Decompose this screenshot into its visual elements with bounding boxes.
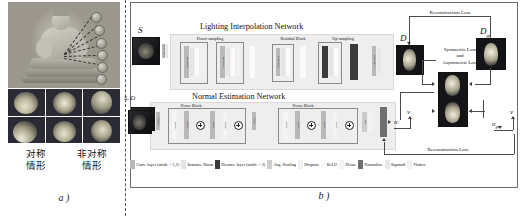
- layer-normalize-nen: [380, 107, 387, 137]
- render-thumbnail-pred: [438, 72, 468, 100]
- recon-bottom-h: [384, 154, 514, 155]
- legend-swatch-relu: [321, 160, 326, 169]
- layer-inorm-s1: [166, 44, 168, 58]
- output-d-thumbnail: [396, 45, 424, 75]
- arrow-to-nv: [388, 120, 391, 124]
- normal-n-label: n: [394, 118, 398, 126]
- legend-item-dropout: Dropout: [298, 160, 319, 169]
- layer-conv-out: 128x128x3: [372, 46, 376, 76]
- lighting-interpolation-network-title: Lighting Interpolation Network: [200, 22, 303, 31]
- statue-hair: [53, 8, 69, 16]
- layer-deconv-u1: [322, 46, 328, 78]
- input-s-thumbnail: [132, 37, 160, 65]
- d-out-line-v: [422, 60, 423, 84]
- layer-dense-b2-1: 32x32: [283, 111, 288, 139]
- gt-into-render-line: [475, 84, 491, 85]
- legend-swatch-normalize: [358, 160, 363, 169]
- legend-label-relu: ReLU: [327, 162, 338, 167]
- reconstruction-loss-bottom-label: Reconstruction Loss: [412, 147, 484, 152]
- recon-top-arrow: [407, 42, 411, 45]
- caption-symmetric: 对称 情形: [8, 146, 64, 192]
- layer-sigmoid-out: [377, 48, 381, 74]
- layer-conv-nen-in: 64x64: [156, 112, 160, 130]
- view-v-stem: [410, 118, 411, 128]
- view-v-gt-stem: [513, 118, 514, 130]
- layer-dense-b1-2: 64x64: [222, 111, 227, 139]
- sphere-tile-2: [46, 89, 83, 116]
- layer-conv-d1: 64x64x32: [184, 46, 189, 78]
- ground-truth-d-label: Dgt: [480, 26, 490, 38]
- layer-avgpool-nen: 8x8: [362, 112, 367, 132]
- layer-relu-d1: [195, 48, 199, 76]
- layer-conv-nen-mid: 32x32: [252, 112, 256, 130]
- caption-symmetric-line1: 对称: [8, 148, 64, 160]
- layer-conv-s1: 128x128x3: [162, 44, 165, 58]
- nv-up-line: [400, 92, 401, 120]
- residual-block-label: Residual Block: [280, 36, 306, 41]
- caption-asymmetric-line2: 情形: [64, 160, 120, 172]
- ngt-into-render-line: [469, 111, 485, 112]
- sphere-sample-grid: [8, 89, 120, 143]
- statue-base-upper: [30, 58, 96, 69]
- ngt-arrow: [498, 126, 502, 129]
- d-to-render-line: [422, 84, 434, 85]
- gt-down-line: [490, 68, 491, 84]
- layer-conv-b1-1: 64x64: [184, 111, 189, 139]
- legend-item-inorm: Instance Norm: [181, 160, 213, 169]
- layer-conv-res: 16x16x128: [276, 48, 280, 76]
- legend-item-normalize: Normalize: [358, 160, 382, 169]
- recon-top-line-left: [409, 16, 410, 45]
- normal-estimation-network-title: Normal Estimation Network: [192, 92, 285, 101]
- legend-label-dropout: Dropout: [304, 162, 318, 167]
- layer-relu-mid: [250, 46, 255, 78]
- light-source-5: [97, 62, 108, 73]
- legend-label-conv: Conv. layer (stride = 1,2): [136, 162, 179, 167]
- sphere-tile-1: [8, 89, 45, 116]
- input-s-label: S: [138, 25, 143, 35]
- legend-item-conv: Conv. layer (stride = 1,2): [130, 160, 179, 169]
- layer-dropout-d2: [236, 48, 240, 76]
- recon-top-line-h: [409, 16, 490, 17]
- panel-divider: [125, 0, 126, 216]
- ngt-up-line: [483, 100, 484, 118]
- layer-dropout-d1: [200, 48, 204, 76]
- layer-relu-u1: [334, 48, 338, 76]
- legend-swatch-deconv: [215, 160, 220, 169]
- panel-b-label: b ): [128, 190, 520, 201]
- legend-item-flatten: Flatten: [407, 160, 425, 169]
- panel-a-captions: 对称 情形 非对称 情形: [8, 146, 120, 192]
- recon-bottom-arrow: [382, 138, 386, 141]
- layer-relu-d2: [231, 48, 235, 76]
- output-d-label: D: [400, 33, 407, 43]
- legend-swatch-avgpool: [267, 160, 272, 169]
- legend-swatch-inorm: [181, 160, 186, 169]
- statue-base-lower: [22, 76, 104, 83]
- legend-item-dense: Dense: [339, 160, 356, 169]
- layer-relu-res: [286, 48, 290, 76]
- recon-bottom-left-v: [384, 142, 385, 154]
- layer-dense-b2-2: 32x32: [333, 111, 338, 139]
- legend-label-normalize: Normalize: [364, 162, 382, 167]
- render-thumbnail-gt: [438, 99, 468, 127]
- legend-swatch-conv: [130, 160, 135, 169]
- layer-inorm-d1: [190, 48, 194, 76]
- legend-label-sigmoid: Sigmoid: [391, 162, 406, 167]
- recon-bottom-right-v: [514, 134, 515, 154]
- symmetric-asymmetric-loss-label: Symmetric Loss and Asymmetric Loss: [428, 47, 492, 66]
- layer-dense-b1-1: 64x64: [172, 111, 177, 139]
- legend: Conv. layer (stride = 1,2) Instance Norm…: [130, 158, 516, 170]
- legend-swatch-dense: [339, 160, 344, 169]
- legend-label-inorm: Instance Norm: [188, 162, 213, 167]
- layer-inorm-d2: [226, 48, 230, 76]
- arrow-to-render-gt: [432, 109, 435, 113]
- sphere-tile-3: [83, 89, 120, 116]
- view-v-gt-label: v: [510, 108, 513, 116]
- legend-swatch-flatten: [407, 160, 412, 169]
- sphere-tile-4: [8, 117, 45, 144]
- layer-flatten-nen: [368, 112, 372, 132]
- d-out-line-h: [422, 60, 436, 61]
- legend-label-flatten: Flatten: [413, 162, 425, 167]
- layer-conv-d2: 32x32x64: [220, 46, 225, 78]
- layer-relu-res2: [300, 46, 306, 78]
- legend-swatch-dropout: [298, 160, 303, 169]
